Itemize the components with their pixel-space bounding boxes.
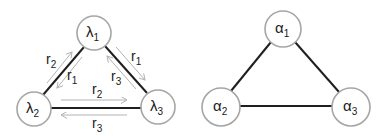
node-alpha2: α2 xyxy=(202,88,240,126)
rate-label-r2-left: r2 xyxy=(46,51,57,70)
right-diagram: α1 α2 α3 xyxy=(202,11,370,126)
left-diagram: r2 r1 r1 r3 r2 r3 λ1 λ2 λ3 xyxy=(17,16,175,134)
rate-label-r2-bottom: r2 xyxy=(92,81,103,100)
edge-alpha1-alpha3 xyxy=(295,42,339,92)
node-alpha1: α1 xyxy=(265,11,301,47)
node-lambda3: λ3 xyxy=(141,90,175,124)
rate-label-r1-right: r1 xyxy=(131,48,142,67)
node-lambda1: λ1 xyxy=(77,16,111,50)
rate-label-r1-left: r1 xyxy=(67,67,78,86)
node-lambda2: λ2 xyxy=(17,92,51,126)
diagram-canvas: r2 r1 r1 r3 r2 r3 λ1 λ2 λ3 α1 α2 xyxy=(0,0,385,136)
rate-label-r3-bottom: r3 xyxy=(92,115,103,134)
node-alpha3: α3 xyxy=(332,88,370,126)
edge-alpha1-alpha2 xyxy=(231,42,271,91)
